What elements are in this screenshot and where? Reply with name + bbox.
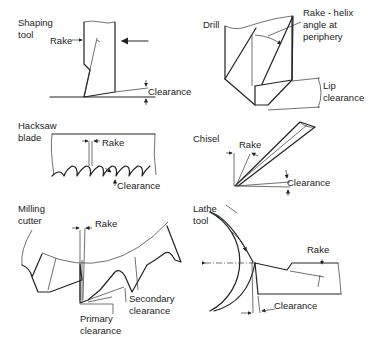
chisel-rake-label: Rake (239, 139, 261, 150)
hacksaw-title-2: blade (18, 132, 41, 143)
shaping-tool-title: Shaping (18, 17, 53, 28)
cutting-tools-diagram (0, 0, 378, 344)
milling-primary-label-2: clearance (80, 325, 121, 336)
lathe-tool-title: Lathe (193, 203, 217, 214)
milling-primary-label-1: Primary (80, 313, 113, 324)
lathe-tool-title-2: tool (193, 215, 208, 226)
shaping-tool-drawing (50, 21, 155, 105)
drill-title: Drill (203, 19, 219, 30)
drill-rake-label-3: periphery (303, 31, 343, 42)
milling-cutter-title-2: cutter (18, 215, 42, 226)
lathe-clearance-label: Clearance (274, 300, 317, 311)
chisel-title: Chisel (193, 133, 219, 144)
milling-rake-label: Rake (95, 218, 117, 229)
hacksaw-clearance-label: Clearance (117, 180, 160, 191)
drill-rake-label-2: angle at (303, 19, 337, 30)
milling-cutter-title: Milling (18, 203, 45, 214)
hacksaw-title: Hacksaw (18, 120, 57, 131)
shaping-tool-title-2: tool (18, 29, 33, 40)
milling-secondary-label-2: clearance (129, 305, 170, 316)
drill-lip-label-2: clearance (323, 92, 364, 103)
shaping-rake-label: Rake (50, 35, 72, 46)
lathe-tool-drawing (205, 205, 341, 313)
chisel-clearance-label: Clearance (287, 177, 330, 188)
hacksaw-rake-label: Rake (102, 137, 124, 148)
drill-rake-label-1: Rake - helix (303, 7, 353, 18)
drill-lip-label-1: Lip (323, 80, 336, 91)
shaping-clearance-label: Clearance (148, 86, 191, 97)
lathe-rake-label: Rake (307, 244, 329, 255)
milling-secondary-label-1: Secondary (129, 293, 174, 304)
